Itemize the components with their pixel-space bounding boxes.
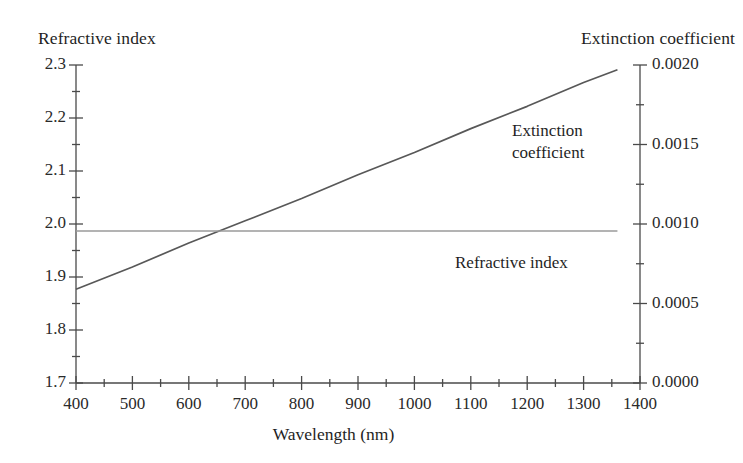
left-axis-tick-label: 2.3: [45, 54, 66, 74]
annotation-extinction-line2: coefficient: [512, 142, 584, 164]
right-axis-tick-label: 0.0010: [652, 213, 699, 233]
right-axis-tick-label: 0.0005: [652, 293, 699, 313]
x-axis-title-text: Wavelength (nm): [273, 424, 395, 445]
left-axis-tick-label: 2.2: [45, 107, 66, 127]
right-axis-tick-label: 0.0015: [652, 134, 699, 154]
x-axis-title: Wavelength (nm): [0, 424, 743, 445]
right-axis-tick-label: 0.0000: [652, 372, 699, 392]
left-axis-tick-label: 2.1: [45, 160, 66, 180]
annotation-extinction-line1: Extinction: [512, 120, 584, 142]
right-axis-title: Extinction coefficient: [581, 28, 735, 49]
left-axis-title: Refractive index: [38, 28, 156, 49]
left-axis-tick-label: 1.7: [45, 372, 66, 392]
right-axis-tick-label: 0.0020: [652, 54, 699, 74]
annotation-refractive-index: Refractive index: [455, 252, 568, 274]
left-axis-tick-label: 1.8: [45, 319, 66, 339]
annotation-extinction-coefficient: Extinction coefficient: [512, 120, 584, 164]
left-axis-tick-label: 2.0: [45, 213, 66, 233]
chart-figure: Refractive index Extinction coefficient …: [0, 0, 743, 463]
left-axis-tick-label: 1.9: [45, 266, 66, 286]
x-axis-tick-label: 1400: [600, 394, 680, 414]
